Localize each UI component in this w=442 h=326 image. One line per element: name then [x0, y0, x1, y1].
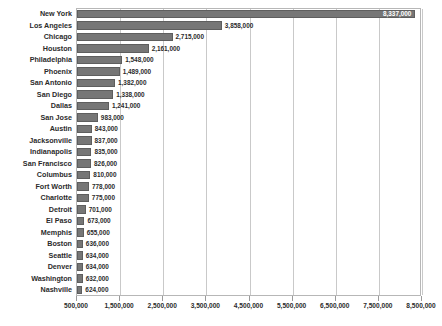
bar-value-label: 632,000 [86, 273, 109, 285]
x-tick [119, 296, 120, 301]
bar-row: Dallas1,241,000 [0, 100, 442, 112]
bar-value-label: 1,548,000 [125, 54, 153, 66]
bar [77, 251, 83, 259]
bar-value-label: 624,000 [85, 284, 108, 296]
bar-fill [77, 33, 173, 41]
category-label: Jacksonville [0, 135, 72, 147]
category-label: Austin [0, 123, 72, 135]
x-tick [249, 296, 250, 301]
bar-row: Indianapolis835,000 [0, 146, 442, 158]
bar-value-label: 636,000 [86, 238, 109, 250]
bar-value-label: 8,337,000 [383, 8, 411, 20]
x-tick-label: 4,500,000 [234, 302, 263, 309]
category-label: El Paso [0, 215, 72, 227]
bar-row: Memphis655,000 [0, 227, 442, 239]
bar-value-label: 1,489,000 [123, 66, 151, 78]
bar-row: Jacksonville837,000 [0, 135, 442, 147]
bar-row: Philadelphia1,548,000 [0, 54, 442, 66]
bar-row: Columbus810,000 [0, 169, 442, 181]
category-label: Philadelphia [0, 54, 72, 66]
bar-value-label: 655,000 [87, 227, 110, 239]
bar [77, 148, 91, 156]
x-tick [421, 296, 422, 301]
bar-fill [77, 182, 89, 190]
bar-fill [77, 240, 83, 248]
category-label: Nashville [0, 284, 72, 296]
bar [77, 263, 83, 271]
x-tick-label: 1,500,000 [104, 302, 133, 309]
bar-row: Chicago2,715,000 [0, 31, 442, 43]
x-tick-label: 500,000 [64, 302, 88, 309]
bar-value-label: 2,161,000 [152, 43, 180, 55]
bar [77, 90, 113, 98]
x-tick [335, 296, 336, 301]
x-tick [378, 296, 379, 301]
bar [77, 240, 83, 248]
category-label: Dallas [0, 100, 72, 112]
bar [77, 182, 89, 190]
bar-row: Detroit701,000 [0, 204, 442, 216]
bar-fill [77, 171, 90, 179]
bar-fill [77, 67, 120, 75]
bar-value-label: 634,000 [86, 261, 109, 273]
bar-row: Los Angeles3,858,000 [0, 20, 442, 32]
x-tick [292, 296, 293, 301]
bar-fill [77, 194, 89, 202]
bar [77, 125, 92, 133]
bar [77, 67, 120, 75]
bar-fill [77, 102, 109, 110]
bar [77, 56, 122, 64]
bar-fill [77, 159, 91, 167]
bar-fill [77, 263, 83, 271]
bar-fill [77, 286, 82, 294]
x-tick-label: 5,500,000 [277, 302, 306, 309]
bar-value-label: 775,000 [92, 192, 115, 204]
bar-row: El Paso673,000 [0, 215, 442, 227]
bar-fill [77, 228, 84, 236]
bar [77, 136, 92, 144]
x-tick-label: 8,500,000 [406, 302, 435, 309]
category-label: Columbus [0, 169, 72, 181]
bar-fill [77, 79, 115, 87]
bar [77, 286, 82, 294]
category-label: New York [0, 8, 72, 20]
bar-value-label: 983,000 [101, 112, 124, 124]
bar-value-label: 1,382,000 [118, 77, 146, 89]
category-label: Detroit [0, 204, 72, 216]
bar-row: Denver634,000 [0, 261, 442, 273]
bar-value-label: 778,000 [92, 181, 115, 193]
bar [77, 10, 415, 18]
category-label: Seattle [0, 250, 72, 262]
category-label: Memphis [0, 227, 72, 239]
bar-value-label: 1,338,000 [116, 89, 144, 101]
bar-row: Fort Worth778,000 [0, 181, 442, 193]
category-label: San Antonio [0, 77, 72, 89]
bar-value-label: 843,000 [95, 123, 118, 135]
bar-row: Houston2,161,000 [0, 43, 442, 55]
x-tick-label: 7,500,000 [363, 302, 392, 309]
bar [77, 205, 86, 213]
category-label: Boston [0, 238, 72, 250]
category-label: San Francisco [0, 158, 72, 170]
bar-row: Charlotte775,000 [0, 192, 442, 204]
bar [77, 217, 84, 225]
bar-fill [77, 251, 83, 259]
bar-fill [77, 125, 92, 133]
bar [77, 159, 91, 167]
bar-fill [77, 148, 91, 156]
bar [77, 228, 84, 236]
bar-row: Austin843,000 [0, 123, 442, 135]
bar [77, 44, 149, 52]
bar [77, 113, 98, 121]
x-tick-label: 6,500,000 [320, 302, 349, 309]
bar [77, 33, 173, 41]
bar-fill [77, 205, 86, 213]
bar-fill [77, 90, 113, 98]
category-label: Houston [0, 43, 72, 55]
bar-fill [77, 56, 122, 64]
bar-row: Boston636,000 [0, 238, 442, 250]
bar-row: New York8,337,000 [0, 8, 442, 20]
bar-row: Seattle634,000 [0, 250, 442, 262]
x-axis: 500,0001,500,0002,500,0003,500,0004,500,… [0, 296, 442, 326]
category-label: Los Angeles [0, 20, 72, 32]
